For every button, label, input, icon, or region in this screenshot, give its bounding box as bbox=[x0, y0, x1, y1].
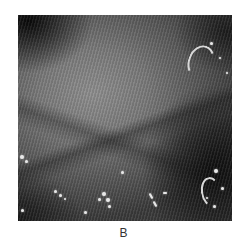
highlight-speck bbox=[25, 160, 28, 163]
highlight-speck bbox=[210, 42, 213, 45]
highlight-speck bbox=[21, 209, 24, 212]
highlight-speck bbox=[214, 169, 218, 173]
highlight-speck bbox=[54, 190, 57, 193]
endoscopic-image bbox=[18, 15, 232, 221]
highlight-speck bbox=[213, 205, 216, 208]
highlight-speck bbox=[108, 205, 111, 208]
highlight-speck bbox=[20, 155, 24, 159]
highlight-speck bbox=[106, 198, 110, 202]
highlight-speck bbox=[121, 171, 124, 174]
highlight-speck bbox=[102, 192, 106, 196]
highlight-speck bbox=[98, 198, 101, 201]
highlight-speck bbox=[59, 194, 62, 197]
highlight-speck bbox=[219, 57, 221, 59]
highlight-speck bbox=[64, 198, 66, 200]
highlight-speck bbox=[221, 187, 224, 190]
highlight-speck bbox=[226, 72, 228, 74]
highlight-speck bbox=[84, 211, 87, 214]
highlight-speck bbox=[163, 192, 167, 194]
panel-label: B bbox=[0, 226, 247, 240]
highlight-speck bbox=[206, 197, 208, 199]
